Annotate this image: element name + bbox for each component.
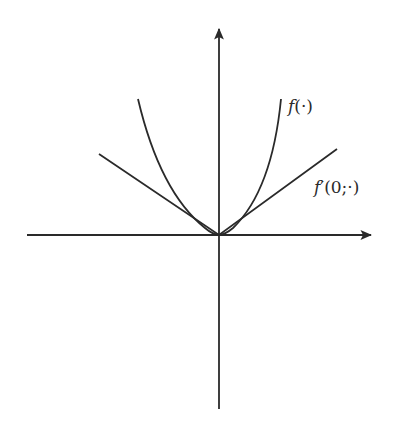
diagram-canvas: f(·) f′(0;·) (0, 0, 393, 425)
directional-derivative-line (99, 149, 337, 235)
derivative-label: f′(0;·) (312, 177, 359, 197)
function-label: f(·) (286, 96, 313, 116)
function-args: (·) (294, 96, 313, 116)
derivative-args: ′(0;·) (320, 177, 359, 197)
function-curve (138, 99, 281, 235)
